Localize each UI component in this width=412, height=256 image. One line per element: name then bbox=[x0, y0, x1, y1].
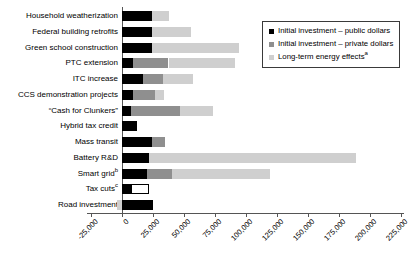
bar-segment bbox=[122, 184, 131, 194]
legend-item-public: Initial investment – public dollars bbox=[269, 25, 393, 37]
bar-segment bbox=[163, 74, 193, 84]
bar-segment bbox=[131, 184, 149, 194]
category-label: Battery R&D bbox=[74, 153, 118, 163]
legend-footnote-marker: a bbox=[365, 50, 368, 56]
legend-item-private: Initial investment – private dollars bbox=[269, 38, 393, 50]
x-tick-label: 200,000 bbox=[353, 217, 379, 243]
bar-segment bbox=[180, 106, 213, 116]
bar-segment bbox=[122, 169, 147, 179]
bar-segment bbox=[152, 27, 192, 37]
bar-segment bbox=[169, 58, 235, 68]
bar-segment bbox=[152, 137, 165, 147]
bar-segment bbox=[122, 153, 149, 163]
category-label: Hybrid tax credit bbox=[60, 121, 118, 131]
x-tick-label: -25,000 bbox=[75, 217, 99, 241]
bar-segment bbox=[143, 74, 163, 84]
x-tick-label: 225,000 bbox=[384, 217, 410, 243]
category-label: Road investment bbox=[58, 200, 118, 210]
x-tick-label: 50,000 bbox=[170, 217, 193, 240]
category-label: “Cash for Clunkers” bbox=[49, 106, 118, 116]
category-footnote-marker: c bbox=[115, 183, 118, 189]
category-label: PTC extension bbox=[66, 58, 118, 68]
category-label: CCS demonstration projects bbox=[18, 90, 118, 100]
x-tick-label: 75,000 bbox=[201, 217, 224, 240]
category-label: Smart gridb bbox=[78, 169, 118, 179]
bar-segment bbox=[117, 200, 122, 210]
x-tick-label: 175,000 bbox=[322, 217, 348, 243]
bar-segment bbox=[122, 58, 133, 68]
bar-segment bbox=[122, 27, 152, 37]
bar-segment bbox=[133, 90, 155, 100]
bar-segment bbox=[147, 169, 172, 179]
bar-segment bbox=[122, 90, 133, 100]
bar-segment bbox=[122, 106, 131, 116]
legend-item-longterm: Long-term energy effectsa bbox=[269, 51, 393, 63]
bar-chart-figure: -25,000025,00050,00075,000100,000125,000… bbox=[0, 0, 412, 256]
bar-segment bbox=[155, 90, 164, 100]
bar-segment bbox=[152, 11, 169, 21]
x-tick-label: 100,000 bbox=[229, 217, 255, 243]
bar-segment bbox=[122, 200, 153, 210]
category-label: Federal building retrofits bbox=[32, 27, 118, 37]
x-tick-label: 25,000 bbox=[139, 217, 162, 240]
x-tick-label: 125,000 bbox=[260, 217, 286, 243]
bar-segment bbox=[122, 121, 137, 131]
bar-segment bbox=[122, 11, 152, 21]
legend-swatch-longterm bbox=[269, 55, 274, 60]
bar-segment bbox=[122, 74, 143, 84]
x-tick-label: 150,000 bbox=[291, 217, 317, 243]
x-tick-label: 0 bbox=[121, 217, 130, 226]
bar-segment bbox=[172, 169, 270, 179]
category-label: ITC increase bbox=[73, 74, 118, 84]
category-label: Mass transit bbox=[75, 137, 118, 147]
bar-segment bbox=[131, 106, 180, 116]
legend-label-public: Initial investment – public dollars bbox=[278, 25, 390, 37]
legend-label-longterm: Long-term energy effectsa bbox=[278, 51, 368, 63]
x-tick-mark bbox=[91, 214, 92, 217]
legend-swatch-private bbox=[269, 42, 274, 47]
bar-segment bbox=[133, 58, 168, 68]
bar-segment bbox=[122, 43, 152, 53]
legend-label-private: Initial investment – private dollars bbox=[278, 38, 393, 50]
category-footnote-marker: b bbox=[115, 167, 118, 173]
legend-swatch-public bbox=[269, 29, 274, 34]
category-label: Tax cutsc bbox=[86, 184, 118, 194]
bar-segment bbox=[152, 43, 239, 53]
category-label: Household weatherization bbox=[26, 11, 118, 21]
bar-segment bbox=[122, 137, 152, 147]
legend: Initial investment – public dollars Init… bbox=[262, 21, 400, 68]
bar-segment bbox=[149, 153, 356, 163]
category-label: Green school construction bbox=[25, 43, 118, 53]
